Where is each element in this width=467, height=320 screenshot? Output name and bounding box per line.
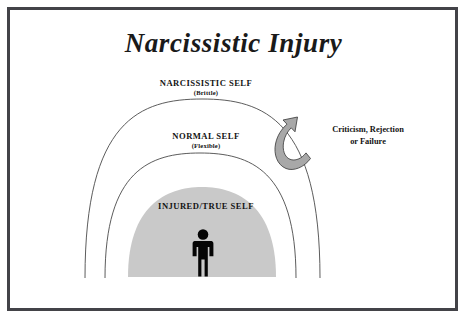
figure-canvas: Narcissistic Injury NARCISSISTIC SELF (B… xyxy=(0,0,467,320)
label-criticism-line2: or Failure xyxy=(308,136,428,148)
label-injured-true-self: INJURED/TRUE SELF xyxy=(98,201,314,211)
label-narcissistic-self-subtitle: (Brittle) xyxy=(98,89,314,97)
label-narcissistic-self-title: NARCISSISTIC SELF xyxy=(98,78,314,88)
label-criticism-rejection-or-failure: Criticism, Rejection or Failure xyxy=(308,124,428,148)
label-normal-self: NORMAL SELF (Flexible) xyxy=(98,131,314,150)
label-normal-self-title: NORMAL SELF xyxy=(98,131,314,141)
label-criticism-line1: Criticism, Rejection xyxy=(308,124,428,136)
label-injured-true-self-title: INJURED/TRUE SELF xyxy=(98,201,314,211)
label-normal-self-subtitle: (Flexible) xyxy=(98,142,314,150)
narcissistic-injury-diagram xyxy=(0,0,467,320)
label-narcissistic-self: NARCISSISTIC SELF (Brittle) xyxy=(98,78,314,97)
